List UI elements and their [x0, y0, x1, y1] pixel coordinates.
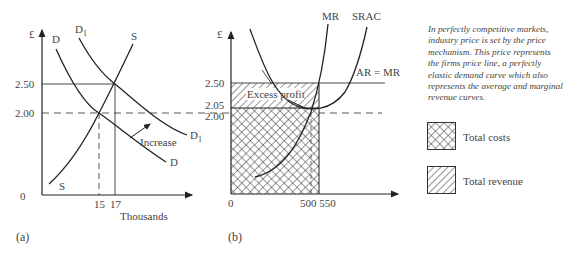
label-d-top: D	[52, 33, 60, 45]
legend-item-total-revenue: Total revenue	[427, 166, 523, 195]
legend-label-total-costs: Total costs	[463, 131, 510, 143]
label-ar-mr: AR = MR	[356, 66, 401, 78]
panel-a-label: (a)	[16, 230, 29, 244]
label-srac: SRAC	[352, 10, 381, 22]
label-s-bottom: S	[59, 180, 65, 192]
y-tick-250: 2.50	[15, 78, 35, 90]
panel-b-label: (b)	[228, 230, 242, 244]
label-mr: MR	[322, 10, 340, 22]
x-tick-500-550: 500 550	[300, 197, 336, 209]
label-excess-profit: Excess profit	[247, 88, 305, 100]
explanatory-text: In perfectly competitive markets, indust…	[428, 24, 563, 104]
label-d1-top: D	[75, 23, 83, 35]
legend-label-total-revenue: Total revenue	[463, 175, 523, 187]
y-axis-currency: £	[217, 28, 223, 40]
legend-item-total-costs: Total costs	[427, 122, 510, 151]
diagonal-hatch-swatch-icon	[427, 166, 457, 195]
label-s-top: S	[131, 30, 137, 42]
x-tick-17: 17	[110, 198, 122, 210]
y-axis-currency: £	[29, 28, 35, 40]
label-increase: Increase	[140, 136, 177, 148]
panel-a-chart: £ 2.50 2.00 0 15 17 Thousands D D 1 S S …	[15, 23, 382, 244]
y-tick-250: 2.50	[205, 77, 225, 89]
label-d1-end-sub: 1	[198, 135, 202, 144]
total-costs-hatch	[231, 108, 319, 194]
label-d1-end: D	[190, 129, 198, 141]
origin-label: 0	[20, 190, 26, 202]
x-axis-label: Thousands	[120, 210, 168, 222]
y-tick-200: 2.00	[205, 110, 225, 122]
supply-curve-s	[49, 44, 133, 184]
y-tick-200: 2.00	[15, 107, 35, 119]
panel-b-chart: £ 2.50 2.05 2.00 0 500 550 MR SRAC AR = …	[205, 10, 401, 244]
cross-hatch-swatch-icon	[427, 122, 457, 151]
x-tick-15: 15	[94, 198, 106, 210]
label-d-end: D	[170, 156, 178, 168]
x-tick-0: 0	[228, 197, 234, 209]
label-d1-top-sub: 1	[83, 29, 87, 38]
